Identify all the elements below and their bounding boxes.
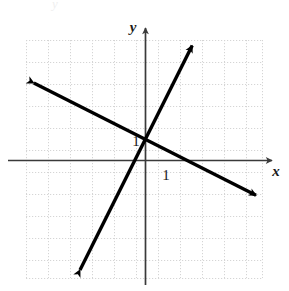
graph-canvas: 1 1 y x [0,0,289,291]
grid-lines [26,40,263,279]
x-axis-label: x [271,163,280,179]
y-axis-label: y [128,19,137,35]
axes [8,28,272,285]
x-unit-tick-label: 1 [162,167,170,183]
coordinate-graph-figure: y [0,0,289,291]
y-unit-tick-label: 1 [132,133,140,149]
